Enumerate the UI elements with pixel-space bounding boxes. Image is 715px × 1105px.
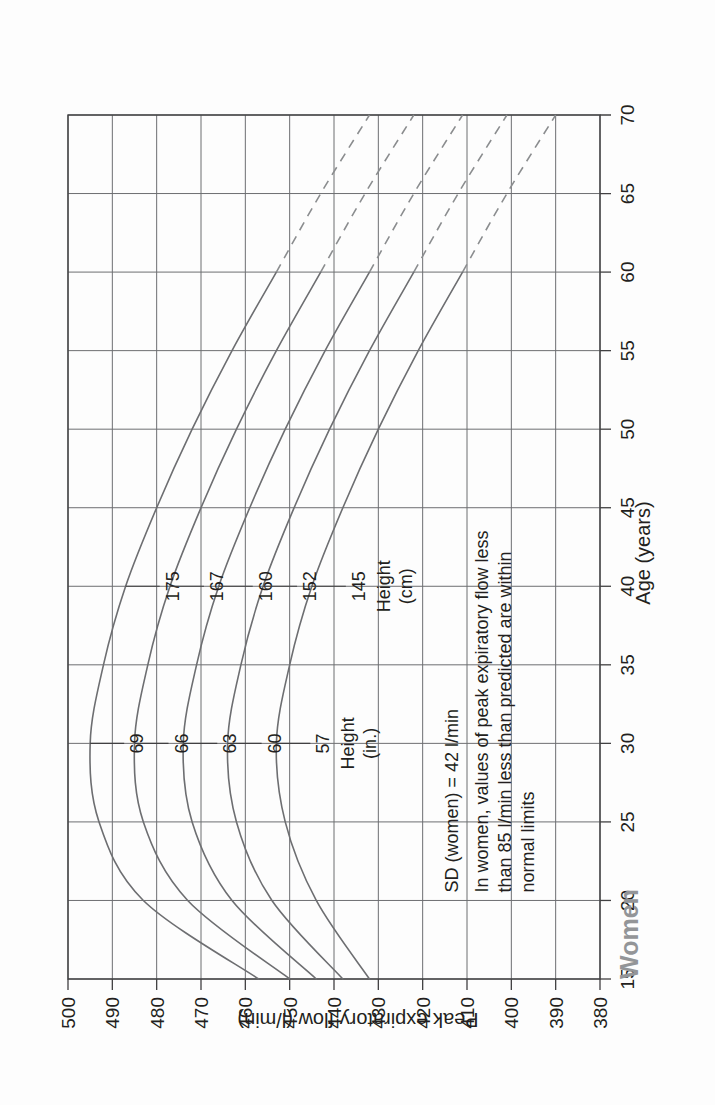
height-caption-in-line1: Height [338, 717, 358, 769]
annotation-note-line1: In women, values of peak expiratory flow… [472, 530, 492, 892]
height-label-cm-145: 145 [348, 571, 368, 601]
x-tick-label: 70 [617, 104, 638, 125]
series-curve-solid-145 [276, 272, 462, 979]
series-curve-solid-167 [134, 272, 320, 979]
x-tick-label: 65 [617, 182, 638, 203]
y-tick-label: 380 [590, 997, 611, 1029]
height-caption-cm-line1: Height [373, 560, 393, 612]
x-tick-label: 25 [617, 811, 638, 832]
x-tick-label: 55 [617, 340, 638, 361]
series-curve-dashed-145 [462, 115, 555, 272]
chart-title: Women [615, 889, 643, 979]
x-tick-label: 60 [617, 261, 638, 282]
chart-page: 1756916766160631526014557Height(cm)Heigh… [0, 0, 715, 1105]
height-label-in-145: 57 [313, 733, 333, 753]
series-curve-solid-160 [183, 272, 369, 979]
y-tick-label: 490 [102, 997, 123, 1029]
series-curve-solid-175 [89, 272, 275, 979]
peak-expiratory-flow-nomogram: 1756916766160631526014557Height(cm)Heigh… [38, 53, 678, 1053]
height-caption-in-line2: (in.) [360, 727, 380, 758]
y-tick-label: 400 [501, 997, 522, 1029]
x-axis-title: Age (years) [632, 501, 654, 604]
series-curve-dashed-152 [413, 115, 506, 272]
y-tick-label: 500 [58, 997, 79, 1029]
annotation-note-line2: than 85 l/min less than predicted are wi… [495, 551, 515, 892]
y-tick-label: 390 [545, 997, 566, 1029]
x-tick-label: 30 [617, 732, 638, 753]
rotated-figure-wrapper: 1756916766160631526014557Height(cm)Heigh… [38, 53, 678, 1053]
chart-annotations: SD (women) = 42 l/minIn women, values of… [442, 530, 538, 892]
height-caption-cm-line2: (cm) [395, 568, 415, 604]
y-tick-label: 470 [191, 997, 212, 1029]
chart-svg: 1756916766160631526014557Height(cm)Heigh… [38, 53, 678, 1053]
series-curve-solid-152 [227, 272, 413, 979]
y-axis-title: Peak expiratory flow (l/min) [237, 1009, 478, 1031]
x-tick-label: 50 [617, 418, 638, 439]
series-curve-dashed-160 [369, 115, 462, 272]
annotation-note-line3: normal limits [518, 791, 538, 892]
annotation-sd: SD (women) = 42 l/min [442, 709, 462, 893]
y-tick-label: 480 [146, 997, 167, 1029]
x-tick-label: 35 [617, 654, 638, 675]
